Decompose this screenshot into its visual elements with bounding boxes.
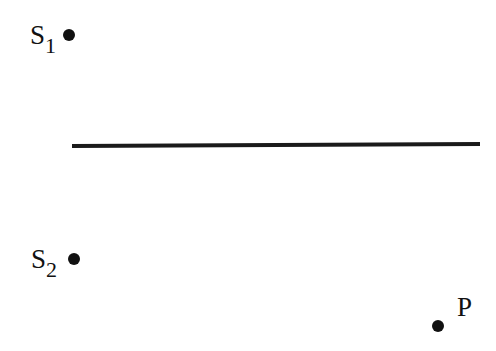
barrier-line	[72, 144, 480, 146]
diagram-canvas: S1 S2 P	[0, 0, 496, 351]
source-s1-dot	[63, 29, 75, 41]
s2-main-text: S	[31, 244, 46, 274]
s1-main-text: S	[30, 20, 45, 50]
diagram-svg	[0, 0, 496, 351]
source-s2-label: S2	[31, 246, 57, 273]
point-p-label: P	[457, 294, 472, 321]
s2-subscript: 2	[46, 257, 57, 282]
p-main-text: P	[457, 292, 472, 322]
source-s1-label: S1	[30, 22, 56, 49]
source-s2-dot	[68, 253, 80, 265]
point-p-dot	[432, 320, 444, 332]
s1-subscript: 1	[45, 33, 56, 58]
